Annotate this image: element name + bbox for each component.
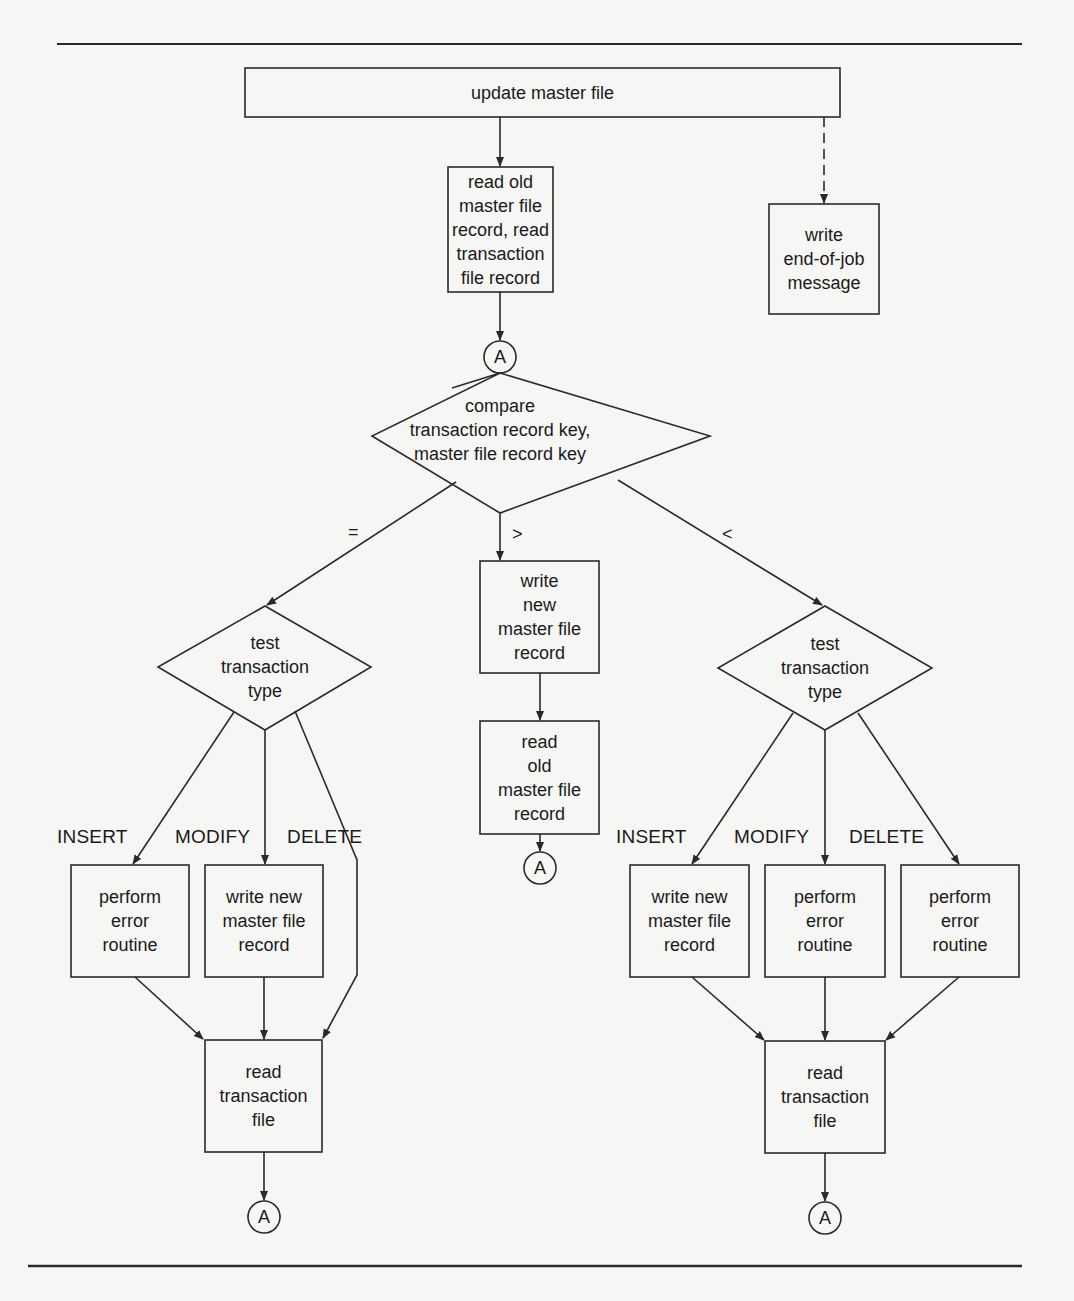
insert-right-label: INSERT — [616, 825, 687, 849]
compare-label: compare transaction record key, master f… — [400, 385, 600, 475]
end-of-job-label: write end-of-job message — [769, 204, 879, 314]
arrow-equal-branch — [267, 482, 456, 605]
connector-a-right-label: A — [810, 1203, 840, 1233]
connector-a-left-label: A — [249, 1202, 279, 1232]
write-new-right-label: write new master file record — [630, 865, 749, 977]
read-transaction-left-label: read transaction file — [205, 1040, 322, 1152]
test-right-label: test transaction type — [750, 631, 900, 705]
connector-a-center-label: A — [525, 853, 555, 883]
perform-error-right-modify-label: perform error routine — [765, 865, 885, 977]
update-master-file-label: update master file — [245, 68, 840, 117]
delete-right-label: DELETE — [849, 825, 924, 849]
write-new-center-label: write new master file record — [480, 561, 599, 673]
arrow-less-branch — [618, 480, 822, 605]
write-new-left-label: write new master file record — [205, 865, 323, 977]
perform-error-left-label: perform error routine — [71, 865, 189, 977]
connector-a-top-label: A — [485, 342, 515, 372]
modify-left-label: MODIFY — [175, 825, 250, 849]
read-transaction-right-label: read transaction file — [765, 1041, 885, 1153]
less-label: < — [722, 522, 733, 546]
read-old-center-label: read old master file record — [480, 721, 599, 834]
read-old-initial-label: read old master file record, read transa… — [448, 167, 553, 292]
delete-left-label: DELETE — [287, 825, 362, 849]
modify-right-label: MODIFY — [734, 825, 809, 849]
equal-label: = — [348, 520, 359, 544]
greater-label: > — [512, 522, 523, 546]
test-left-label: test transaction type — [190, 630, 340, 704]
perform-error-right-delete-label: perform error routine — [901, 865, 1019, 977]
insert-left-label: INSERT — [57, 825, 128, 849]
